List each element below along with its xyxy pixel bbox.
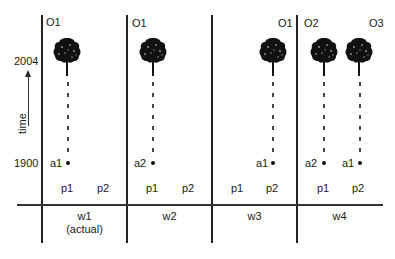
position-label-p2: p2 [266, 182, 278, 194]
world-label: w1 (actual) [42, 210, 127, 236]
position-label-p1: p1 [231, 182, 243, 194]
dot-icon [271, 161, 275, 165]
tree-icon [139, 37, 167, 77]
world-label: w2 [127, 210, 212, 223]
position-label-p2: p2 [97, 182, 109, 194]
divider-w1-left [41, 15, 43, 243]
time-arrow-shaft [28, 74, 29, 126]
world-label: w3 [212, 210, 297, 223]
world-sublabel: (actual) [42, 223, 127, 236]
tree-icon [310, 37, 338, 77]
time-axis-label: time [16, 113, 28, 134]
agent-label: a1 [342, 157, 354, 169]
agent-label: a1 [50, 157, 62, 169]
object-label: O3 [369, 17, 384, 29]
position-label-p1: p1 [317, 182, 329, 194]
dot-icon [66, 161, 70, 165]
tree-icon [345, 37, 373, 77]
timeline-dots [272, 82, 274, 158]
object-label: O2 [304, 17, 319, 29]
year-2004-label: 2004 [14, 55, 38, 67]
world-name: w2 [127, 210, 212, 223]
timeline-dots [359, 82, 361, 158]
object-label: O1 [132, 17, 147, 29]
timeline-dots [323, 82, 325, 158]
position-label-p1: p1 [146, 182, 158, 194]
world-label: w4 [297, 210, 382, 223]
dot-icon [322, 161, 326, 165]
agent-label: a1 [256, 157, 268, 169]
divider-w2-w3 [211, 15, 213, 243]
position-label-p2: p2 [352, 182, 364, 194]
object-label: O1 [278, 17, 293, 29]
timeline-dots [152, 82, 154, 158]
position-label-p1: p1 [61, 182, 73, 194]
year-1900-label: 1900 [14, 157, 38, 169]
world-name: w3 [212, 210, 297, 223]
divider-w1-w2 [126, 15, 128, 243]
baseline-divider [17, 204, 383, 206]
agent-label: a2 [305, 157, 317, 169]
tree-icon [53, 37, 81, 77]
position-label-p2: p2 [182, 182, 194, 194]
divider-w3-w4 [296, 15, 298, 243]
dot-icon [151, 161, 155, 165]
world-name: w4 [297, 210, 382, 223]
dot-icon [358, 161, 362, 165]
tree-icon [259, 37, 287, 77]
object-label: O1 [46, 16, 61, 28]
agent-label: a2 [134, 157, 146, 169]
world-name: w1 [42, 210, 127, 223]
timeline-dots [67, 82, 69, 158]
